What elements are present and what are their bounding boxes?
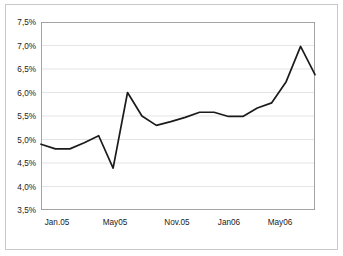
- x-axis-tick-labels: Jan.05 May05 Nov.05 Jan06 May06: [45, 218, 293, 227]
- gridlines: [41, 46, 315, 187]
- y-tick-label-6-5: 6,5%: [17, 65, 36, 74]
- y-tick-label-7-0: 7,0%: [17, 42, 36, 51]
- y-tick-label-7-5: 7,5%: [17, 18, 36, 27]
- x-tick-label-may05: May05: [103, 218, 128, 227]
- data-series-line: [41, 46, 315, 168]
- x-tick-label-jan05: Jan.05: [45, 218, 70, 227]
- y-axis-tick-labels: 7,5% 7,0% 6,5% 6,0% 5,5% 5,0% 4,5% 4,0% …: [17, 18, 36, 215]
- y-tick-label-4-5: 4,5%: [17, 159, 36, 168]
- chart-figure: 7,5% 7,0% 6,5% 6,0% 5,5% 5,0% 4,5% 4,0% …: [0, 0, 343, 256]
- y-tick-label-6-0: 6,0%: [17, 89, 36, 98]
- line-chart: 7,5% 7,0% 6,5% 6,0% 5,5% 5,0% 4,5% 4,0% …: [0, 0, 343, 256]
- y-tick-label-3-5: 3,5%: [17, 206, 36, 215]
- y-tick-label-5-5: 5,5%: [17, 112, 36, 121]
- x-tick-label-may06: May06: [268, 218, 293, 227]
- y-tick-label-4-0: 4,0%: [17, 183, 36, 192]
- x-tick-label-jan06: Jan06: [218, 218, 241, 227]
- x-tick-label-nov05: Nov.05: [164, 218, 190, 227]
- y-tick-label-5-0: 5,0%: [17, 136, 36, 145]
